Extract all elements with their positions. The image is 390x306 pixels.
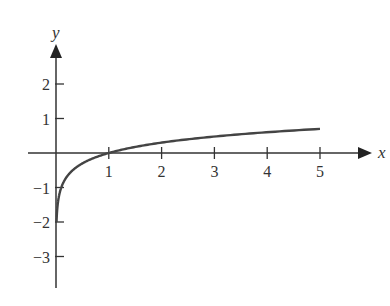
x-axis-label: x [377,143,386,162]
y-tick-label: 1 [42,111,50,128]
x-tick-label: 4 [263,163,271,180]
x-ticks: 12345 [105,147,324,180]
y-tick-label: 2 [42,76,50,93]
x-tick-label: 1 [105,163,113,180]
y-tick-label: −2 [33,214,50,231]
y-axis-label: y [50,23,60,42]
x-tick-label: 2 [158,163,166,180]
log-function-plot: 12345 21−1−2−3 x y [0,0,390,306]
y-tick-label: −3 [33,249,50,266]
x-tick-label: 5 [316,163,324,180]
x-tick-label: 3 [210,163,218,180]
x-axis-arrow-icon [358,147,372,159]
y-axis-arrow-icon [50,44,62,58]
y-tick-label: −1 [33,180,50,197]
log-curve [57,129,320,222]
y-ticks: 21−1−2−3 [33,76,64,266]
